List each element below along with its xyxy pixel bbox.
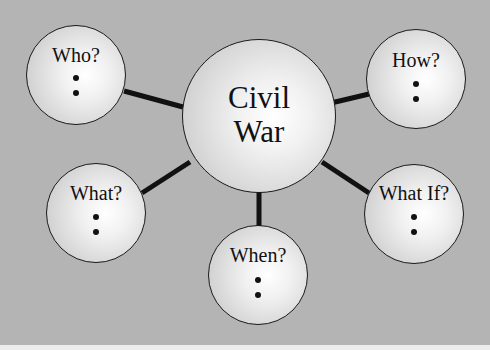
node-who: Who? bbox=[26, 25, 126, 125]
bullet-icon bbox=[255, 292, 261, 298]
bullet-list bbox=[209, 277, 307, 298]
node-label: Who? bbox=[27, 44, 125, 66]
connector-what bbox=[142, 162, 190, 193]
bullet-icon bbox=[255, 277, 261, 283]
bullet-list bbox=[27, 75, 125, 96]
bottom-strip bbox=[0, 345, 490, 350]
bullet-icon bbox=[411, 214, 417, 220]
bullet-icon bbox=[413, 81, 419, 87]
node-label: How? bbox=[367, 49, 465, 71]
center-label-line1: Civil bbox=[183, 81, 335, 115]
bullet-icon bbox=[411, 229, 417, 235]
bullet-icon bbox=[73, 90, 79, 96]
node-label: When? bbox=[209, 244, 307, 266]
node-label: What? bbox=[47, 182, 145, 204]
connector-who bbox=[124, 91, 183, 107]
bullet-list bbox=[365, 214, 463, 235]
node-what-if: What If? bbox=[364, 164, 464, 264]
bullet-icon bbox=[73, 75, 79, 81]
bullet-icon bbox=[93, 229, 99, 235]
node-how: How? bbox=[366, 29, 466, 129]
connector-what-if bbox=[322, 162, 369, 193]
node-label: What If? bbox=[365, 182, 463, 204]
bullet-icon bbox=[93, 214, 99, 220]
center-node-civil-war: Civil War bbox=[182, 39, 336, 193]
center-label-line2: War bbox=[183, 115, 335, 149]
node-when: When? bbox=[208, 225, 308, 325]
bullet-list bbox=[47, 214, 145, 235]
node-what: What? bbox=[46, 163, 146, 263]
bullet-icon bbox=[413, 96, 419, 102]
bullet-list bbox=[367, 81, 465, 102]
mind-map-canvas: Civil War Who? How? What? What If? When? bbox=[0, 0, 490, 345]
connector-how bbox=[331, 94, 369, 103]
